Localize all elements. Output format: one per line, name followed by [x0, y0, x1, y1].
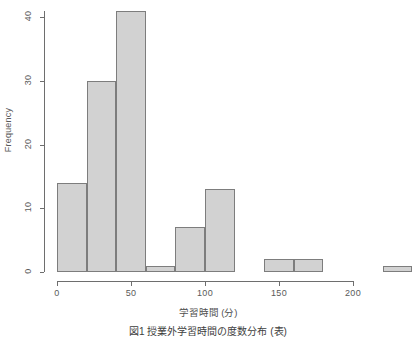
y-axis-tick: [40, 81, 44, 82]
x-axis-tick: [131, 282, 132, 286]
y-axis-line: [44, 11, 45, 272]
histogram-bar: [383, 266, 413, 272]
histogram-bar: [57, 183, 87, 272]
x-axis-tick: [279, 282, 280, 286]
x-axis-tick-label: 0: [42, 288, 72, 298]
bars-layer: [0, 0, 416, 295]
x-axis-title: 学習時間 (分): [0, 305, 416, 319]
y-axis-tick-label: 0: [23, 263, 33, 279]
y-axis-tick-label: 20: [23, 136, 33, 152]
x-axis-tick-label: 150: [264, 288, 294, 298]
figure-caption: 図1 授業外学習時間の度数分布 (表): [0, 323, 416, 338]
x-axis-tick-label: 200: [338, 288, 368, 298]
y-axis-title: Frequency: [3, 95, 13, 165]
y-axis-tick: [40, 145, 44, 146]
histogram-bar: [294, 259, 324, 272]
x-axis-tick-label: 50: [116, 288, 146, 298]
y-axis-tick: [40, 208, 44, 209]
histogram-bar: [87, 81, 117, 272]
histogram-bar: [116, 11, 146, 272]
histogram-bar: [146, 266, 176, 272]
y-axis-tick: [40, 17, 44, 18]
histogram-bar: [205, 189, 235, 272]
y-axis-tick-label: 40: [23, 8, 33, 24]
x-axis-tick: [57, 282, 58, 286]
y-axis-tick-label: 10: [23, 199, 33, 215]
y-axis-tick: [40, 272, 44, 273]
x-axis-tick: [353, 282, 354, 286]
y-axis-tick-label: 30: [23, 72, 33, 88]
x-axis-tick: [205, 282, 206, 286]
x-axis-tick-label: 100: [190, 288, 220, 298]
histogram-bar: [264, 259, 294, 272]
plot-area: 010203040 050100150200 Frequency: [0, 0, 416, 295]
histogram-bar: [175, 227, 205, 272]
